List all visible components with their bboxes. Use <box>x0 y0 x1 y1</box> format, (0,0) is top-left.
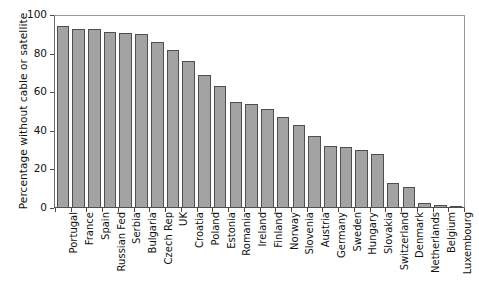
bar <box>72 29 85 208</box>
x-tick-label: Ireland <box>256 212 269 288</box>
y-tick-label: 0 <box>40 201 47 214</box>
x-tick-label: France <box>83 212 96 288</box>
bar <box>198 75 211 208</box>
x-axis-labels: PortugalFranceSpainRussian FedSerbiaBulg… <box>55 212 464 288</box>
bar <box>371 154 384 208</box>
x-tick-label: Croatia <box>193 212 206 288</box>
y-tick-label: 20 <box>34 162 47 175</box>
y-axis-tick: 100 <box>0 15 54 16</box>
x-tick-label: Russian Fed <box>115 212 128 288</box>
bar <box>261 109 274 208</box>
bars-container <box>55 15 464 208</box>
x-tick-label: Norway <box>288 212 301 288</box>
bar <box>167 50 180 208</box>
bar <box>308 136 321 208</box>
bar <box>135 34 148 208</box>
y-axis-tick: 0 <box>0 208 54 209</box>
y-tick-mark <box>50 208 54 209</box>
y-tick-label: 80 <box>34 47 47 60</box>
x-tick-label: Slovakia <box>382 212 395 288</box>
x-tick-label: Czech Rep <box>162 212 175 288</box>
bar <box>387 183 400 208</box>
x-tick-label: Romania <box>240 212 253 288</box>
bar <box>151 42 164 208</box>
y-tick-label: 60 <box>34 85 47 98</box>
x-tick-label: Switzerland <box>398 212 411 288</box>
x-tick-label: Estonia <box>225 212 238 288</box>
x-tick-label: Bulgaria <box>146 212 159 288</box>
x-tick-label: Denmark <box>413 212 426 288</box>
y-axis-title: Percentage without cable or satellite <box>14 3 32 219</box>
x-tick-label: Sweden <box>351 212 364 288</box>
x-tick-label: Serbia <box>130 212 143 288</box>
x-tick-label: Hungary <box>366 212 379 288</box>
bar <box>355 150 368 208</box>
y-axis-tick: 60 <box>0 92 54 93</box>
x-tick-label: Poland <box>209 212 222 288</box>
bar <box>182 61 195 208</box>
bar <box>245 104 258 208</box>
bar <box>104 32 117 208</box>
x-tick-label: Netherlands <box>429 212 442 288</box>
x-tick-label: Germany <box>335 212 348 288</box>
x-tick-label: Spain <box>99 212 112 288</box>
bar <box>88 29 101 208</box>
bar <box>230 102 243 208</box>
x-tick-label: Austria <box>319 212 332 288</box>
y-tick-label: 100 <box>27 8 47 21</box>
y-axis-tick: 80 <box>0 54 54 55</box>
bar <box>119 33 132 208</box>
bar <box>214 86 227 208</box>
y-axis-tick: 40 <box>0 131 54 132</box>
bar <box>340 147 353 208</box>
bar <box>277 117 290 208</box>
y-tick-label: 40 <box>34 124 47 137</box>
x-tick-label: Portugal <box>67 212 80 288</box>
bar <box>403 187 416 208</box>
bar <box>57 26 70 208</box>
bar-chart: Percentage without cable or satellite 02… <box>0 0 479 288</box>
y-axis-tick: 20 <box>0 169 54 170</box>
x-tick-label: UK <box>177 212 190 288</box>
x-tick-label: Luxembourg <box>461 212 474 288</box>
x-tick-label: Slovenia <box>303 212 316 288</box>
x-tick-label: Belgium <box>445 212 458 288</box>
bar <box>293 125 306 208</box>
x-tick-label: Finland <box>272 212 285 288</box>
bar <box>324 146 337 208</box>
